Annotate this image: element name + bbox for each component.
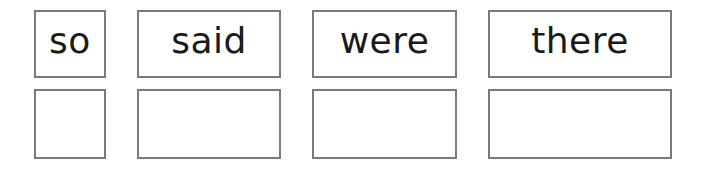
word-label: so	[49, 23, 91, 65]
word-label: there	[531, 23, 629, 65]
word-label: were	[340, 23, 430, 65]
word-card-there: there	[488, 10, 672, 78]
word-card-were: were	[312, 10, 457, 78]
word-label: said	[171, 23, 247, 65]
answer-box-4[interactable]	[488, 89, 672, 159]
answer-box-1[interactable]	[34, 89, 106, 159]
word-card-so: so	[34, 10, 106, 78]
answer-box-2[interactable]	[137, 89, 281, 159]
answer-box-3[interactable]	[312, 89, 457, 159]
word-card-said: said	[137, 10, 281, 78]
